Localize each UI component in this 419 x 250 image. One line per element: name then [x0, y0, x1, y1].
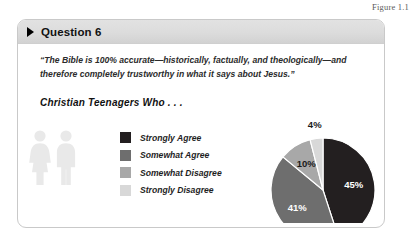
- question-title: Question 6: [41, 26, 101, 38]
- legend-label-strongly-disagree: Strongly Disagree: [140, 185, 214, 195]
- legend-item-strongly-agree: Strongly Agree: [120, 129, 240, 147]
- pie-slice-label: 41%: [288, 202, 308, 213]
- chart-subtitle: Christian Teenagers Who . . .: [40, 97, 183, 108]
- question-card: Question 6 “The Bible is 100% accurate—h…: [17, 19, 385, 228]
- pie-slice-label: 45%: [344, 179, 364, 190]
- chart-legend: Strongly Agree Somewhat Agree Somewhat D…: [120, 129, 240, 199]
- legend-swatch-somewhat-disagree: [120, 167, 131, 178]
- legend-swatch-strongly-agree: [120, 132, 131, 143]
- legend-item-somewhat-agree: Somewhat Agree: [120, 147, 240, 165]
- legend-item-strongly-disagree: Strongly Disagree: [120, 182, 240, 200]
- figure-caption: Figure 1.1: [372, 2, 409, 12]
- pie-slice-label: 4%: [308, 119, 322, 130]
- legend-swatch-strongly-disagree: [120, 185, 131, 196]
- legend-item-somewhat-disagree: Somewhat Disagree: [120, 164, 240, 182]
- legend-label-somewhat-disagree: Somewhat Disagree: [140, 168, 222, 178]
- pie-chart: 45%41%10%4%: [250, 98, 380, 223]
- card-header: Question 6: [18, 20, 384, 44]
- question-quote: “The Bible is 100% accurate—historically…: [40, 54, 365, 81]
- legend-swatch-somewhat-agree: [120, 150, 131, 161]
- legend-label-somewhat-agree: Somewhat Agree: [140, 150, 209, 160]
- pie-slice-label: 10%: [297, 158, 317, 169]
- play-triangle-icon: [27, 27, 34, 37]
- legend-label-strongly-agree: Strongly Agree: [140, 133, 201, 143]
- two-people-icon: [23, 128, 85, 186]
